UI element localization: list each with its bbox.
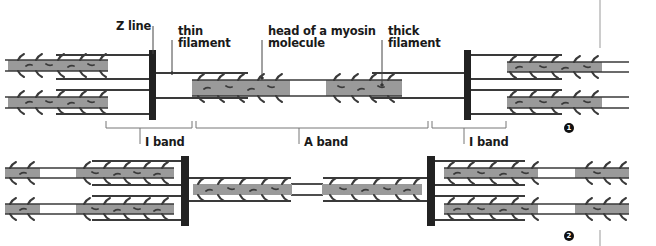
z-line-right	[464, 50, 471, 120]
thick-filament-left-lower-2	[5, 198, 174, 220]
thick-filament-right-lower-2	[444, 198, 629, 220]
i-band-right-label: I band	[469, 136, 509, 148]
z-line-right-2	[427, 156, 435, 226]
z-line-left-2	[181, 156, 189, 226]
z-line-left	[149, 50, 156, 120]
thick-filament-right-upper-2	[444, 162, 629, 184]
myosin-head-label-line2: molecule	[268, 37, 325, 49]
panel-relaxed	[5, 0, 629, 144]
panel-1-marker: 1	[564, 123, 574, 133]
thick-filament-left-lower	[5, 91, 108, 114]
thick-filament-left-upper-2	[5, 162, 174, 184]
thick-filament-center-2	[193, 178, 422, 201]
thick-filament-left-upper	[5, 54, 108, 77]
thick-filament-label-line2: filament	[388, 37, 441, 49]
z-line-label: Z line	[116, 20, 151, 32]
panel-contracted	[5, 156, 629, 246]
i-band-left-label: I band	[145, 136, 185, 148]
a-band-label: A band	[304, 136, 348, 148]
thick-filament-right-lower	[507, 91, 629, 114]
panel-2-marker: 2	[564, 231, 574, 241]
sarcomere-diagram: Z line thin filament head of a myosin mo…	[0, 0, 656, 246]
thin-filament-label-line2: filament	[178, 37, 231, 49]
thick-filament-right-upper	[507, 56, 629, 78]
